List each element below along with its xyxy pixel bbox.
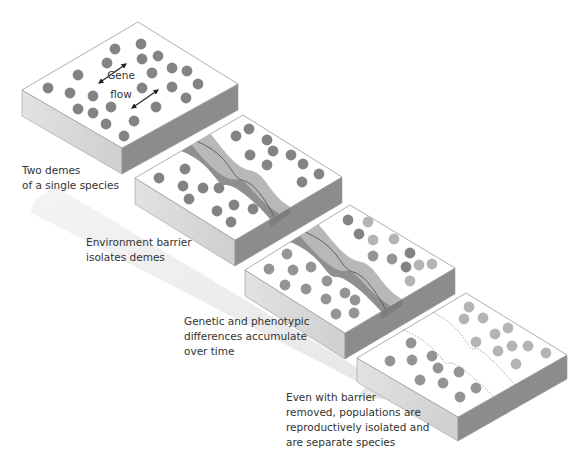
organism-dot xyxy=(354,229,365,240)
organism-dot xyxy=(264,264,275,275)
organism-dot xyxy=(88,91,99,102)
organism-dot xyxy=(193,79,204,90)
organism-dot xyxy=(73,104,84,115)
organism-dot xyxy=(167,82,178,93)
organism-dot xyxy=(405,276,416,287)
organism-dot xyxy=(414,260,425,271)
organism-dot xyxy=(331,309,342,320)
organism-dot xyxy=(181,93,192,104)
organism-dot xyxy=(321,294,332,305)
organism-dot xyxy=(198,183,209,194)
organism-dot xyxy=(151,102,162,113)
organism-dot xyxy=(405,248,416,259)
gene-label: Gene xyxy=(104,66,138,85)
organism-dot xyxy=(262,160,273,171)
organism-dot xyxy=(212,206,223,217)
organism-dot xyxy=(214,183,225,194)
organism-dot xyxy=(427,351,438,362)
stage-4-caption: Even with barrier removed, populations a… xyxy=(286,390,430,450)
organism-dot xyxy=(137,83,148,94)
organism-dot xyxy=(471,383,482,394)
organism-dot xyxy=(297,177,308,188)
organism-dot xyxy=(415,375,426,386)
organism-dot xyxy=(136,39,147,50)
organism-dot xyxy=(503,323,514,334)
organism-dot xyxy=(493,346,504,357)
organism-dot xyxy=(129,116,140,127)
organism-dot xyxy=(119,131,130,142)
organism-dot xyxy=(368,235,379,246)
gene-flow-label: Gene flow xyxy=(104,66,138,104)
organism-dot xyxy=(147,68,158,79)
organism-dot xyxy=(438,378,449,389)
organism-dot xyxy=(229,200,240,211)
organism-dot xyxy=(301,284,312,295)
organism-dot xyxy=(178,181,189,192)
organism-dot xyxy=(101,119,112,130)
organism-dot xyxy=(288,265,299,276)
organism-dot xyxy=(387,254,398,265)
organism-dot xyxy=(340,288,351,299)
organism-dot xyxy=(137,54,148,65)
organism-dot xyxy=(322,276,333,287)
organism-dot xyxy=(459,314,470,325)
organism-dot xyxy=(110,44,121,55)
organism-dot xyxy=(541,348,552,359)
organism-dot xyxy=(349,308,360,319)
organism-dot xyxy=(511,359,522,370)
organism-dot xyxy=(368,251,379,262)
organism-dot xyxy=(286,150,297,161)
organism-dot xyxy=(433,363,444,374)
organism-dot xyxy=(507,341,518,352)
flow-label: flow xyxy=(104,85,138,104)
organism-dot xyxy=(244,124,255,135)
organism-dot xyxy=(389,234,400,245)
organism-dot xyxy=(153,51,164,62)
stage-3-caption: Genetic and phenotypic differences accum… xyxy=(184,314,310,359)
organism-dot xyxy=(180,164,191,175)
stage-1-caption: Two demes of a single species xyxy=(22,163,119,193)
organism-dot xyxy=(454,367,465,378)
organism-dot xyxy=(363,217,374,228)
organism-dot xyxy=(231,131,242,142)
organism-dot xyxy=(154,173,165,184)
organism-dot xyxy=(407,355,418,366)
organism-dot xyxy=(350,295,361,306)
organism-dot xyxy=(167,63,178,74)
organism-dot xyxy=(262,135,273,146)
organism-dot xyxy=(282,249,293,260)
organism-dot xyxy=(478,313,489,324)
organism-dot xyxy=(65,88,76,99)
organism-dot xyxy=(385,356,396,367)
organism-dot xyxy=(298,159,309,170)
organism-dot xyxy=(343,215,354,226)
organism-dot xyxy=(268,146,279,157)
organism-dot xyxy=(401,262,412,273)
organism-dot xyxy=(73,70,84,81)
organism-dot xyxy=(427,259,438,270)
organism-dot xyxy=(406,338,417,349)
organism-dot xyxy=(245,150,256,161)
organism-dot xyxy=(471,337,482,348)
stage-2-caption: Environment barrier isolates demes xyxy=(86,235,192,265)
organism-dot xyxy=(88,108,99,119)
organism-dot xyxy=(280,280,291,291)
organism-dot xyxy=(248,204,259,215)
organism-dot xyxy=(182,66,193,77)
organism-dot xyxy=(184,194,195,205)
organism-dot xyxy=(464,302,475,313)
organism-dot xyxy=(306,262,317,273)
organism-dot xyxy=(523,341,534,352)
organism-dot xyxy=(226,217,237,228)
organism-dot xyxy=(490,329,501,340)
organism-dot xyxy=(314,169,325,180)
organism-dot xyxy=(455,392,466,403)
organism-dot xyxy=(43,83,54,94)
